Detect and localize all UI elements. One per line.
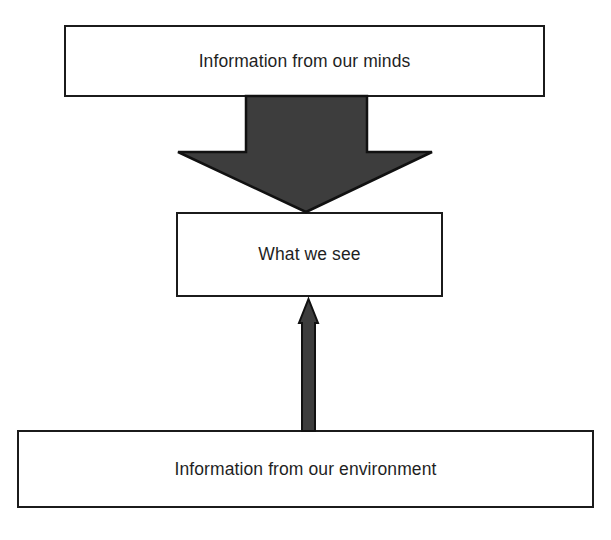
- node-label-what-we-see: What we see: [258, 244, 360, 265]
- down-arrow-minds-to-see: [178, 96, 432, 212]
- node-label-minds: Information from our minds: [199, 51, 411, 72]
- node-box-environment: Information from our environment: [17, 430, 594, 508]
- diagram-canvas: Information from our minds What we see I…: [0, 0, 611, 540]
- node-label-environment: Information from our environment: [175, 459, 437, 480]
- up-arrow-environment-to-see: [299, 299, 318, 431]
- node-box-what-we-see: What we see: [176, 212, 443, 297]
- node-box-minds: Information from our minds: [64, 25, 545, 97]
